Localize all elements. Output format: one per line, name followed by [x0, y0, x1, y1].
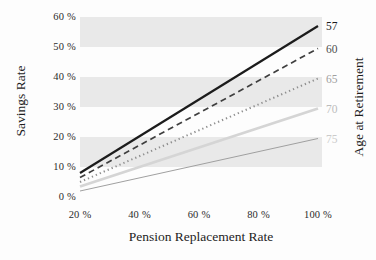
series-end-label-age-65: 65: [326, 72, 360, 86]
x-axis-title: Pension Replacement Rate: [80, 229, 322, 245]
series-end-label-age-60: 60: [326, 42, 360, 56]
x-tick-label: 100 %: [296, 208, 340, 222]
plot-area: [80, 17, 322, 197]
y-tick-label: 0 %: [24, 190, 76, 204]
y-tick-label: 50 %: [24, 40, 76, 54]
x-tick-label: 40 %: [118, 208, 162, 222]
background-band: [80, 137, 322, 167]
series-end-label-age-75: 75: [326, 132, 360, 146]
x-tick-label: 20 %: [58, 208, 102, 222]
x-tick-label: 80 %: [237, 208, 281, 222]
y-tick-label: 20 %: [24, 130, 76, 144]
y-tick-label: 30 %: [24, 100, 76, 114]
y-tick-label: 10 %: [24, 160, 76, 174]
chart-svg: [80, 17, 322, 197]
background-band: [80, 17, 322, 47]
y-tick-label: 60 %: [24, 10, 76, 24]
y-tick-label: 40 %: [24, 70, 76, 84]
x-tick-label: 60 %: [177, 208, 221, 222]
series-end-label-age-70: 70: [326, 102, 360, 116]
chart-canvas: Pension Replacement Rate Savings Rate Ag…: [0, 0, 376, 260]
series-end-label-age-57: 57: [326, 19, 360, 33]
